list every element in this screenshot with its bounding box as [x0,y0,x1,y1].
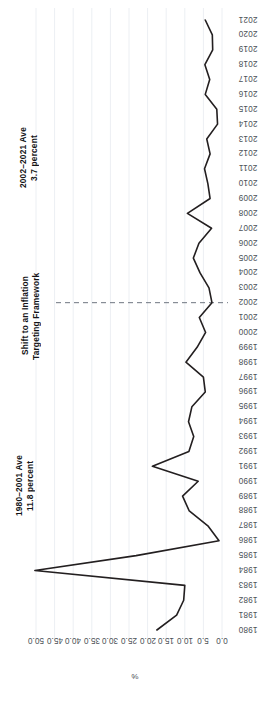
year-tick-label: 1992 [228,446,268,455]
year-tick-label: 2005 [228,253,268,262]
year-tick-label: 1990 [228,476,268,485]
year-tick-label: 1998 [228,357,268,366]
year-tick-label: 2021 [228,15,268,24]
year-tick-label: 1997 [228,372,268,381]
year-tick-label: 2009 [228,193,268,202]
annotation-policy-shift: Shift to an Inflation Targeting Framewor… [20,256,42,376]
year-tick-label: 1999 [228,342,268,351]
inflation-series-line [35,20,219,630]
year-tick-label: 2002 [228,297,268,306]
year-axis-labels: 1980198119821983198419851986198719881989… [228,0,270,706]
year-tick-label: 2003 [228,282,268,291]
year-tick-label: 2018 [228,59,268,68]
year-tick-label: 2013 [228,134,268,143]
year-tick-label: 1980 [228,625,268,634]
year-tick-label: 2015 [228,104,268,113]
year-tick-label: 2004 [228,267,268,276]
year-tick-label: 2000 [228,327,268,336]
annotation-ave-1980-2001: 1980–2001 Ave 11.8 percent [14,430,36,542]
year-tick-label: 1986 [228,535,268,544]
year-tick-label: 2008 [228,208,268,217]
year-tick-label: 1982 [228,595,268,604]
percent-tick-label: 0.0 [209,636,235,645]
year-tick-label: 1989 [228,491,268,500]
year-tick-label: 2001 [228,312,268,321]
year-tick-label: 1985 [228,550,268,559]
year-tick-label: 1993 [228,431,268,440]
year-tick-label: 2014 [228,119,268,128]
inflation-rate-chart: 1980198119821983198419851986198719881989… [0,0,270,706]
year-tick-label: 2006 [228,238,268,247]
year-tick-label: 1994 [228,416,268,425]
year-tick-label: 2019 [228,44,268,53]
year-tick-label: 2011 [228,163,268,172]
year-tick-label: 2007 [228,223,268,232]
year-tick-label: 1995 [228,401,268,410]
year-tick-label: 1983 [228,580,268,589]
percent-axis-labels: 50.045.040.035.030.025.020.015.010.05.00… [0,636,270,670]
axis-title-percent: % [123,672,147,681]
year-tick-label: 2017 [228,74,268,83]
year-tick-label: 1981 [228,610,268,619]
annotation-ave-2002-2021: 2002–2021 Ave 3.7 percent [18,108,40,208]
year-tick-label: 2020 [228,29,268,38]
year-tick-label: 1984 [228,565,268,574]
year-tick-label: 1991 [228,461,268,470]
year-tick-label: 1987 [228,520,268,529]
year-tick-label: 1996 [228,386,268,395]
year-tick-label: 2010 [228,178,268,187]
year-tick-label: 1988 [228,505,268,514]
year-tick-label: 2012 [228,148,268,157]
year-tick-label: 2016 [228,89,268,98]
